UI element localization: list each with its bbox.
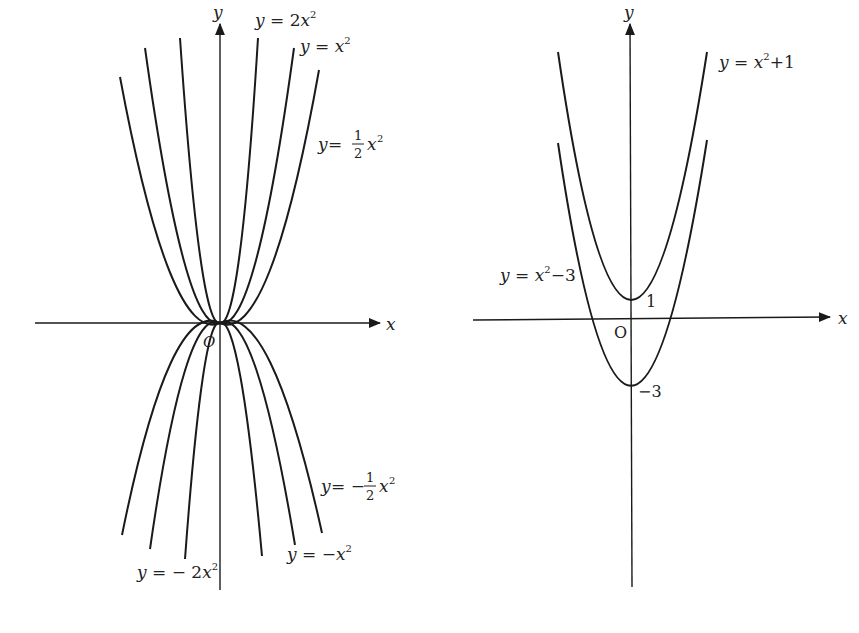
label-y-x2-plus-1: y = x2+1 [718,51,795,72]
right-y-axis-label: y [623,2,634,22]
svg-text:x: x [367,134,377,154]
label-y-neg-x2: y = −x2 [286,543,352,564]
label-y-neg-2x2: y = − 2x2 [136,561,218,582]
curve-y-neg-x2 [150,322,295,549]
svg-text:y: y [320,476,331,496]
right-x-axis [473,317,830,320]
svg-text:y: y [317,134,328,154]
label-y-2x2: y = 2x2 [254,9,316,30]
svg-text:x: x [379,476,389,496]
curve-y-neg-half-x2 [122,321,322,535]
label-y-x2-minus-3: y = x2−3 [499,264,576,285]
left-y-axis-label: y [212,2,223,22]
right-graph: x y O 1 −3 y = x2+1 y = x2−3 [473,2,848,587]
svg-text:2: 2 [377,133,383,144]
svg-text:= −: = − [331,476,365,496]
svg-text:1: 1 [354,128,362,143]
svg-text:=: = [328,134,342,154]
vertex-label-neg-3: −3 [638,382,662,401]
left-x-axis-label: x [386,314,396,334]
curve-y-neg-2x2 [185,323,262,559]
svg-text:2: 2 [366,488,374,503]
right-origin-label: O [614,323,627,342]
svg-text:1: 1 [366,470,374,485]
svg-text:2: 2 [354,146,362,161]
curve-y-2x2 [180,38,258,323]
svg-text:2: 2 [389,475,395,486]
label-y-neg-half-x2: y = − 1 2 x 2 [320,470,395,503]
vertex-label-1: 1 [646,292,656,311]
label-y-half-x2: y = 1 2 x 2 [317,128,383,161]
label-y-x2: y = x2 [299,35,351,56]
left-graph: x y O y = 2x2 y = x2 y = 1 2 x 2 y = − 1 [35,2,396,590]
right-x-axis-label: x [838,308,848,328]
figure-canvas: x y O y = 2x2 y = x2 y = 1 2 x 2 y = − 1 [0,0,859,633]
right-y-axis [630,24,632,587]
